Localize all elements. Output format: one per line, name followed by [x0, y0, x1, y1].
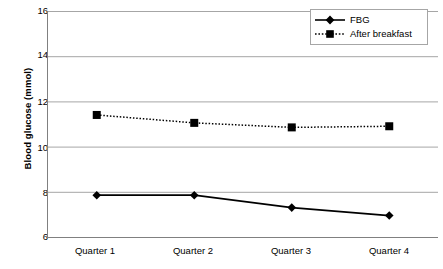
x-tick-label-quarter-1: Quarter 1: [46, 245, 144, 256]
series-layer: [92, 111, 393, 220]
legend: FBG After breakfast: [310, 9, 428, 45]
legend-swatch-dotted-square-icon: [314, 28, 346, 40]
y-tick-label-14: 14: [18, 50, 48, 60]
y-tick-label-10: 10: [18, 143, 48, 153]
y-tick-label-6: 6: [18, 232, 48, 242]
y-tick-label-8: 8: [18, 188, 48, 198]
line-chart: Blood glucose (mmol) 16 14 12 10 8 6 Qua…: [0, 0, 443, 269]
x-tick-label-quarter-3: Quarter 3: [242, 245, 340, 256]
legend-label-after-breakfast: After breakfast: [346, 28, 412, 40]
legend-entry-fbg: FBG: [314, 13, 425, 27]
legend-entry-after-breakfast: After breakfast: [314, 27, 425, 41]
y-tick-label-12: 12: [18, 97, 48, 107]
legend-swatch-solid-diamond-icon: [314, 14, 346, 26]
x-tick-label-quarter-2: Quarter 2: [144, 245, 242, 256]
x-tick-label-quarter-4: Quarter 4: [340, 245, 438, 256]
y-tick-label-16: 16: [18, 6, 48, 16]
plot-area: [47, 11, 438, 238]
legend-label-fbg: FBG: [346, 14, 370, 26]
